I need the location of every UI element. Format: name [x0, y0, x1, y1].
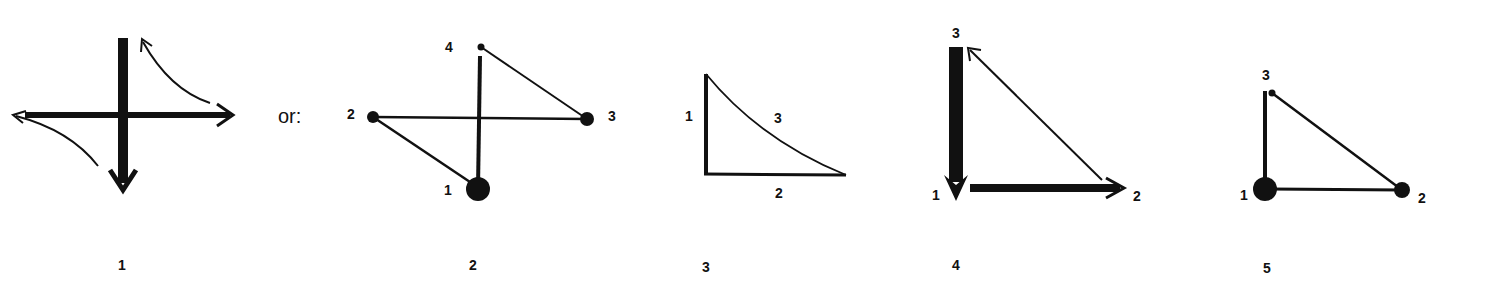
figure-5: 1 2 3 5	[1240, 67, 1426, 276]
curved-arrow-bottom-left	[16, 116, 98, 166]
edge-1-4	[478, 56, 480, 188]
curved-arrow-top-right	[143, 42, 210, 103]
node-label-2: 2	[347, 106, 355, 122]
figure-caption: 2	[469, 257, 477, 273]
edge-label-2: 2	[775, 185, 783, 201]
edge-3-2	[1272, 93, 1402, 190]
horizontal-thick-arrow-shaft	[25, 112, 230, 118]
vertical-thick-arrow-shaft	[118, 38, 128, 183]
node-label-1: 1	[444, 182, 452, 198]
node-label-2: 2	[1418, 190, 1426, 206]
node-1	[1253, 177, 1277, 201]
node-1	[466, 177, 490, 201]
node-4	[478, 44, 485, 51]
vertex-label-3: 3	[952, 25, 960, 41]
node-label-4: 4	[445, 39, 453, 55]
vertex-label-2: 2	[1133, 188, 1141, 204]
figure-caption: 3	[702, 259, 710, 275]
node-2	[1394, 182, 1410, 198]
edge-label-1: 1	[685, 108, 693, 124]
edge-3-1-thick-arrow	[949, 47, 963, 182]
vertex-label-1: 1	[932, 187, 940, 203]
node-label-1: 1	[1240, 187, 1248, 203]
node-label-3: 3	[608, 108, 616, 124]
figure-3: 1 2 3 3	[685, 74, 846, 275]
edge-2-3-thin-arrow	[970, 50, 1102, 180]
edge-1-2-thick-arrow	[970, 184, 1120, 192]
figure-caption: 4	[952, 257, 960, 273]
edge-1-2	[1265, 189, 1402, 190]
figure-1: or: 1	[13, 38, 301, 273]
figure-4: 1 2 3 4	[932, 25, 1141, 273]
figure-caption: 5	[1263, 260, 1271, 276]
figure-caption: 1	[118, 257, 126, 273]
edge-2	[704, 174, 846, 175]
node-label-3: 3	[1262, 67, 1270, 83]
separator-or: or:	[278, 105, 301, 127]
edge-label-3: 3	[774, 110, 782, 126]
edge-2-3	[373, 117, 587, 119]
edge-2-1	[373, 117, 470, 182]
figure-2: 1 2 3 4 2	[347, 39, 616, 273]
node-3	[580, 112, 594, 126]
curved-arrow-head-icon	[141, 39, 152, 52]
node-2	[367, 111, 379, 123]
node-3	[1269, 90, 1276, 97]
edge-4-3	[481, 47, 587, 119]
